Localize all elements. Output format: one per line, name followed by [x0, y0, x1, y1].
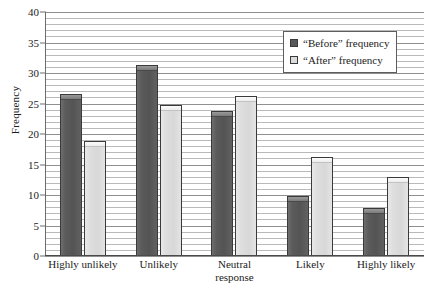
x-axis-tick-label-line: Likely: [272, 258, 348, 271]
bar-top-highlight: [312, 158, 332, 163]
x-axis-tick-label-line: response: [197, 271, 273, 284]
y-axis-tick-label: 10: [0, 189, 39, 201]
y-axis-tick-label: 5: [0, 220, 39, 232]
legend: “Before” frequency“After” frequency: [283, 31, 397, 73]
bar-after: [160, 105, 182, 256]
bar-top-highlight: [61, 95, 81, 100]
gridline-major: [45, 256, 424, 257]
x-axis-tick-label: Highly unlikely: [45, 258, 121, 284]
bar-top-highlight: [137, 66, 157, 71]
bar-group: [121, 12, 197, 256]
y-axis-tick-label: 40: [0, 6, 39, 18]
bar-before: [211, 111, 233, 256]
x-axis-tick-label: Neutralresponse: [197, 258, 273, 284]
bar-top-highlight: [364, 209, 384, 214]
legend-label: “After” frequency: [303, 53, 383, 67]
y-axis-tick-label: 0: [0, 250, 39, 262]
bar-before: [136, 65, 158, 256]
bar-before: [363, 208, 385, 256]
legend-item: “Before” frequency: [290, 36, 389, 50]
bar-before: [287, 196, 309, 256]
bar-chart: Frequency 0510152025303540 Highly unlike…: [0, 0, 427, 293]
bar-group: [197, 12, 273, 256]
x-axis-tick-labels: Highly unlikelyUnlikelyNeutralresponseLi…: [45, 258, 424, 284]
bar-top-highlight: [288, 197, 308, 202]
bar-group: [45, 12, 121, 256]
y-axis-tick-label: 30: [0, 67, 39, 79]
bar-top-highlight: [161, 106, 181, 111]
bar-top-highlight: [85, 142, 105, 147]
x-axis-line: [45, 255, 424, 256]
legend-item: “After” frequency: [290, 53, 389, 67]
y-axis-tick-label: 35: [0, 37, 39, 49]
bar-after: [84, 141, 106, 256]
x-axis-tick-label: Unlikely: [121, 258, 197, 284]
y-axis-tick-label: 15: [0, 159, 39, 171]
bar-after: [235, 96, 257, 256]
x-axis-tick-label-line: Unlikely: [121, 258, 197, 271]
x-axis-tick-label-line: Neutral: [197, 258, 273, 271]
x-axis-tick-label-line: Highly unlikely: [45, 258, 121, 271]
y-axis-tick-label: 20: [0, 128, 39, 140]
legend-swatch-after: [290, 56, 298, 64]
bar-top-highlight: [212, 112, 232, 117]
x-axis-tick-label: Likely: [272, 258, 348, 284]
bar-before: [60, 94, 82, 256]
y-axis-tick-label: 25: [0, 98, 39, 110]
x-axis-tick-label: Highly likely: [348, 258, 424, 284]
bar-after: [311, 157, 333, 256]
bar-top-highlight: [236, 97, 256, 102]
x-axis-tick-label-line: Highly likely: [348, 258, 424, 271]
bar-after: [387, 177, 409, 256]
legend-swatch-before: [290, 39, 298, 47]
legend-label: “Before” frequency: [303, 36, 389, 50]
bar-top-highlight: [388, 178, 408, 183]
